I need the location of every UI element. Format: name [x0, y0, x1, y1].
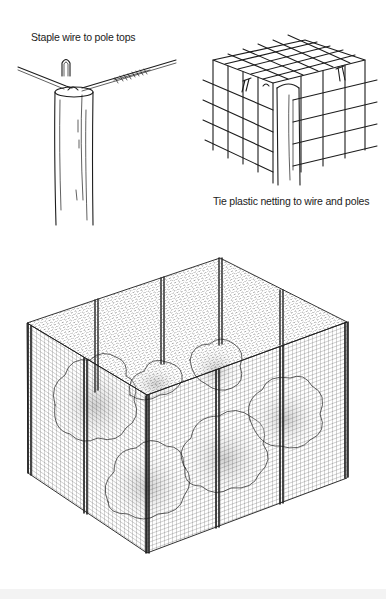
- wooden-pole: [55, 87, 93, 225]
- netting-enclosure-illustration: [0, 240, 386, 589]
- netting-caption: Tie plastic netting to wire and poles: [213, 195, 369, 207]
- netting-corner-illustration: [193, 0, 386, 195]
- netting-corner-panel: Tie plastic netting to wire and poles: [193, 0, 386, 230]
- plastic-netting-grid: [203, 35, 377, 183]
- page-bottom-edge: [0, 589, 386, 599]
- pole-with-staple-illustration: [0, 0, 193, 230]
- u-staple: [62, 60, 70, 77]
- staple-detail-panel: Staple wire to pole tops: [0, 0, 193, 230]
- netting-enclosure-box: [27, 258, 347, 553]
- top-wire: [18, 60, 176, 91]
- enclosure-overview-panel: [0, 240, 386, 589]
